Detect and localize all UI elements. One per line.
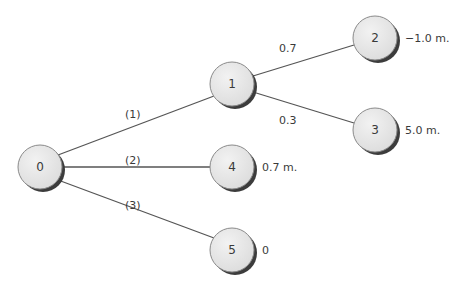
- node-4-label: 4: [228, 160, 236, 174]
- node-2-label: 2: [371, 31, 379, 45]
- value-node-4: 0.7 m.: [262, 161, 297, 174]
- node-2: 2: [353, 16, 400, 63]
- node-5: 5: [210, 228, 257, 275]
- value-node-3: 5.0 m.: [405, 124, 440, 137]
- edge-label-0-5: (3): [125, 199, 141, 212]
- node-1: 1: [210, 62, 257, 109]
- edge-label-1-3: 0.3: [279, 114, 297, 127]
- terminal-values: −1.0 m. 5.0 m. 0.7 m. 0: [262, 32, 449, 257]
- edges: [58, 45, 354, 238]
- decision-tree-diagram: (1) (2) (3) 0.7 0.3 0 1 2 3 4 5 −1.0 m. …: [0, 0, 453, 295]
- edge-0-1: [58, 96, 214, 155]
- node-3: 3: [353, 108, 400, 155]
- edge-label-0-1: (1): [125, 108, 141, 121]
- value-node-5: 0: [262, 244, 269, 257]
- edge-label-1-2: 0.7: [279, 42, 297, 55]
- node-4: 4: [210, 145, 257, 192]
- edge-1-3: [253, 92, 354, 123]
- node-5-label: 5: [228, 243, 236, 257]
- node-1-label: 1: [228, 77, 236, 91]
- edge-labels: (1) (2) (3) 0.7 0.3: [125, 42, 297, 212]
- node-3-label: 3: [371, 123, 379, 137]
- value-node-2: −1.0 m.: [405, 32, 449, 45]
- node-0: 0: [18, 145, 65, 192]
- node-0-label: 0: [36, 160, 44, 174]
- edge-label-0-4: (2): [125, 154, 141, 167]
- edge-1-2: [253, 45, 354, 76]
